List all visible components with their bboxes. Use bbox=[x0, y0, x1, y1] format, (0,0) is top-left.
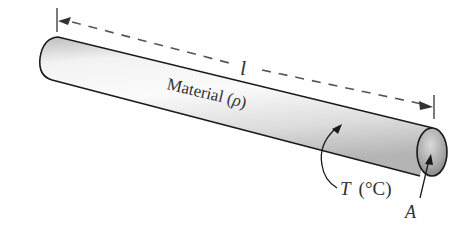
area-label: A bbox=[404, 202, 417, 222]
temperature-label: T(°C) bbox=[340, 178, 392, 200]
temperature-symbol: T bbox=[340, 178, 352, 199]
left-arrowhead-icon bbox=[58, 17, 71, 25]
rod-end-cap bbox=[417, 128, 447, 176]
right-arrowhead-icon bbox=[419, 101, 433, 110]
rod-diagram: l Material (ρ) T(°C) A bbox=[0, 0, 473, 239]
length-label: l bbox=[240, 55, 246, 80]
temperature-unit: (°C) bbox=[359, 178, 392, 200]
